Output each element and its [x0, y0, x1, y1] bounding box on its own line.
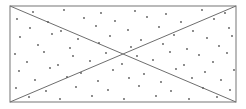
scatter-point [204, 71, 206, 73]
scatter-point [169, 51, 171, 53]
scatter-point [43, 51, 45, 53]
scatter-point [29, 27, 31, 29]
scatter-point [173, 34, 175, 36]
scatter-point [229, 89, 231, 91]
scatter-point [75, 86, 77, 88]
scatter-point [198, 54, 200, 56]
scatter-point [89, 60, 91, 62]
scatter-point [32, 11, 34, 13]
scatter-point [231, 35, 233, 37]
scatter-point [201, 9, 203, 11]
scatter-point [213, 18, 215, 20]
scatter-point [228, 27, 230, 29]
scatter-point [212, 61, 214, 63]
scatter-point [143, 73, 145, 75]
scatter-point [183, 64, 185, 66]
scatter-point [100, 12, 102, 14]
scatter-point [15, 87, 17, 89]
scatter-point [165, 13, 167, 15]
scatter-point [18, 70, 20, 72]
scatter-point [69, 47, 71, 49]
scatter-point [170, 90, 172, 92]
scatter-point [97, 80, 99, 82]
scatter-point [202, 87, 204, 89]
scatter-point [162, 43, 164, 45]
scatter-point [112, 69, 114, 71]
scatter-point [26, 61, 28, 63]
scatter-point [158, 26, 160, 28]
scatter-point [60, 30, 62, 32]
scatter-point [57, 64, 59, 66]
scatter-point [121, 63, 123, 65]
scatter-point [136, 55, 138, 57]
scatter-point [37, 44, 39, 46]
scatter-point [130, 46, 132, 48]
rectangle-diagonals-figure [0, 0, 246, 109]
scatter-point [59, 98, 61, 100]
scatter-point [107, 89, 109, 91]
scatter-point [138, 85, 140, 87]
scatter-point [14, 53, 16, 55]
scatter-point [191, 77, 193, 79]
scatter-point [45, 90, 47, 92]
scatter-point [109, 35, 111, 37]
scatter-point [114, 20, 116, 22]
diagram-canvas [0, 0, 246, 109]
scatter-point [49, 67, 51, 69]
scatter-point [226, 52, 228, 54]
scatter-point [16, 18, 18, 20]
scatter-point [47, 21, 49, 23]
scatter-point [152, 59, 154, 61]
scatter-point [206, 37, 208, 39]
scatter-point [95, 25, 97, 27]
scatter-point [105, 52, 107, 54]
scatter-point [218, 45, 220, 47]
scatter-point [175, 68, 177, 70]
scatter-point [192, 30, 194, 32]
scatter-point [83, 17, 85, 19]
scatter-point [63, 9, 65, 11]
scatter-point [155, 95, 157, 97]
scatter-point [72, 55, 74, 57]
scatter-point [146, 16, 148, 18]
scatter-point [127, 29, 129, 31]
scatter-point [160, 81, 162, 83]
scatter-point [123, 98, 125, 100]
scatter-point [34, 79, 36, 81]
scatter-point [51, 33, 53, 35]
scatter-point [98, 42, 100, 44]
scatter-point [19, 36, 21, 38]
scatter-point [180, 21, 182, 23]
scatter-point [66, 76, 68, 78]
scatter-point [28, 96, 30, 98]
scatter-point [220, 79, 222, 81]
scatter-point [91, 95, 93, 97]
scatter-point [128, 77, 130, 79]
scatter-point [134, 10, 136, 12]
scatter-point [233, 69, 235, 71]
scatter-point [188, 98, 190, 100]
scatter-point [140, 39, 142, 41]
scatter-point [216, 96, 218, 98]
scatter-point [77, 38, 79, 40]
scatter-point [186, 48, 188, 50]
scatter-point [80, 72, 82, 74]
scatter-point [224, 12, 226, 14]
